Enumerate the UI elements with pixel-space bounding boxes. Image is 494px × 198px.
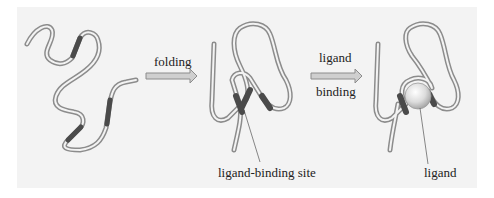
binding-site-leader-line <box>244 110 260 162</box>
ligand-arrow-top-label: ligand <box>319 51 352 64</box>
ligand-leader-line <box>420 108 428 164</box>
dark-segment <box>241 90 250 109</box>
folding-arrow <box>146 69 197 83</box>
folding-label: folding <box>154 55 192 68</box>
folded-chain <box>212 24 291 162</box>
binding-site-label: ligand-binding site <box>218 166 316 179</box>
ligand-binding-arrow <box>311 69 362 83</box>
ligand-sphere <box>405 83 431 109</box>
dark-segment <box>107 100 110 124</box>
binding-arrow-bottom-label: binding <box>316 85 356 98</box>
dark-segment <box>262 96 270 108</box>
unfolded-chain <box>27 26 136 150</box>
ligand-label: ligand <box>424 166 457 179</box>
dark-segment <box>73 38 80 56</box>
dark-segment <box>68 127 81 140</box>
bound-chain <box>376 24 459 164</box>
